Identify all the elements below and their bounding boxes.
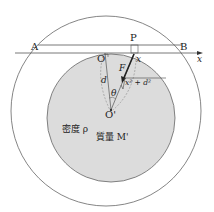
diagram: A B P O O' x x d θ F x² + d² 密度 ρ 質量 M' bbox=[0, 0, 214, 212]
label-x-point: x bbox=[136, 54, 141, 64]
label-p: P bbox=[130, 32, 137, 43]
label-o-prime: O' bbox=[105, 109, 116, 120]
right-angle-mark-p bbox=[131, 45, 138, 53]
label-o: O bbox=[97, 53, 105, 64]
label-hyp: x² + d² bbox=[125, 78, 151, 87]
label-b: B bbox=[180, 41, 187, 52]
label-theta: θ bbox=[111, 88, 117, 98]
label-f: F bbox=[118, 63, 126, 73]
label-density: 密度 ρ bbox=[62, 123, 88, 134]
label-a: A bbox=[30, 41, 39, 52]
label-mass: 質量 M' bbox=[96, 131, 129, 142]
label-x-axis: x bbox=[197, 54, 202, 64]
label-d: d bbox=[101, 75, 107, 85]
